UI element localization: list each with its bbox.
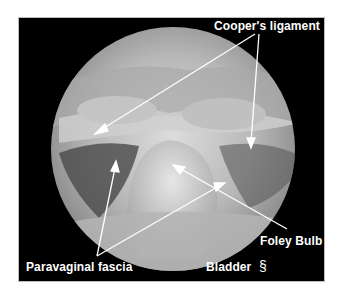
label-bladder: Bladder bbox=[206, 260, 251, 274]
image-frame: Cooper's ligament Foley Bulb Paravaginal… bbox=[18, 17, 325, 282]
label-paravaginal-fascia: Paravaginal fascia bbox=[26, 260, 133, 274]
label-coopers-ligament: Cooper's ligament bbox=[214, 19, 320, 33]
publisher-logo-icon: § bbox=[259, 258, 267, 274]
label-foley-bulb: Foley Bulb bbox=[260, 234, 322, 248]
